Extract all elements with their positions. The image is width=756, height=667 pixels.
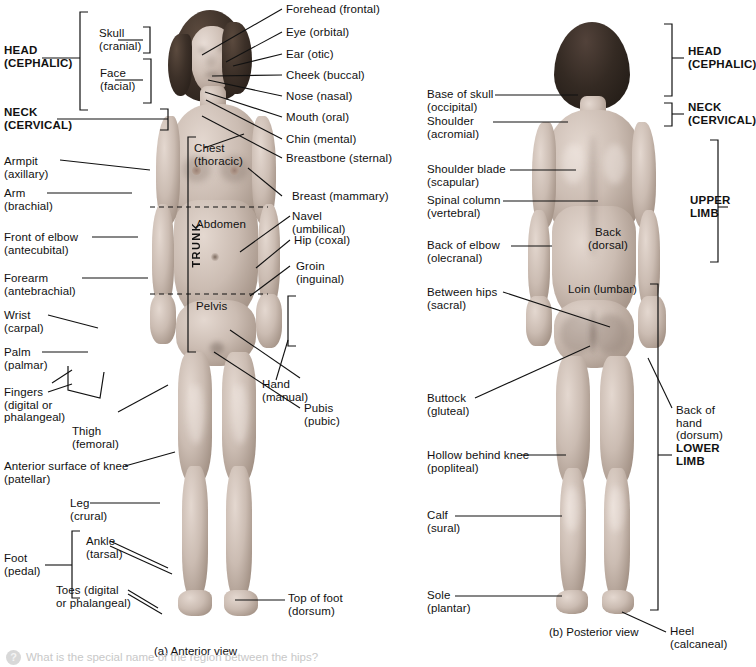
anterior-abdomen-label: Abdomen — [196, 218, 246, 231]
anterior-label-breast: Breast (mammary) — [292, 190, 389, 203]
anterior-label-cheek: Cheek (buccal) — [286, 69, 365, 82]
anterior-label-nose: Nose (nasal) — [286, 90, 352, 103]
posterior-label-shoulder: Shoulder (acromial) — [427, 115, 479, 140]
question-icon: ? — [6, 650, 21, 665]
anterior-head-bracket-label: HEAD (CEPHALIC) — [4, 44, 72, 69]
posterior-label-shoulder-blade: Shoulder blade (scapular) — [427, 163, 506, 188]
anterior-label-top-of-foot: Top of foot (dorsum) — [288, 592, 343, 617]
anterior-label-breastbone: Breastbone (sternal) — [286, 152, 392, 165]
anterior-label-chin: Chin (mental) — [286, 133, 356, 146]
posterior-label-loin: Loin (lumbar) — [568, 283, 637, 296]
anterior-label-fingers: Fingers (digital or phalangeal) — [4, 386, 65, 424]
anterior-label-mouth: Mouth (oral) — [286, 111, 349, 124]
posterior-label-heel: Heel (calcaneal) — [670, 625, 727, 650]
posterior-label-buttock: Buttock (gluteal) — [427, 392, 469, 417]
posterior-label-hollow-behind-knee: Hollow behind knee (popliteal) — [427, 449, 529, 474]
anterior-label-palm: Palm (palmar) — [4, 346, 48, 371]
anterior-label-pubis: Pubis (pubic) — [304, 402, 340, 427]
anterior-neck-bracket-label: NECK (CERVICAL) — [4, 106, 72, 131]
posterior-view-caption: (b) Posterior view — [549, 626, 638, 638]
anterior-label-knee: Anterior surface of knee (patellar) — [4, 460, 129, 485]
anterior-label-thigh: Thigh (femoral) — [72, 425, 119, 450]
anterior-label-leg: Leg (crural) — [70, 497, 107, 522]
anterior-chest-label: Chest (thoracic) — [194, 142, 243, 167]
posterior-label-back-of-elbow: Back of elbow (olecranal) — [427, 239, 500, 264]
anterior-label-hand: Hand (manual) — [262, 378, 308, 403]
anterior-label-hip: Hip (coxal) — [294, 234, 350, 247]
posterior-label-upper-limb: UPPER LIMB — [690, 194, 731, 219]
posterior-label-base-of-skull: Base of skull (occipital) — [427, 88, 494, 113]
anterior-face-bracket-label: Face (facial) — [100, 67, 135, 92]
anterior-label-forearm: Forearm (antebrachial) — [4, 272, 76, 297]
posterior-label-neck: NECK (CERVICAL) — [688, 101, 756, 126]
anterior-label-forehead: Forehead (frontal) — [286, 3, 380, 16]
anterior-label-wrist: Wrist (carpal) — [4, 309, 44, 334]
posterior-label-sole: Sole (plantar) — [427, 589, 471, 614]
footer-question-text: What is the special name of the region b… — [26, 651, 318, 663]
anterior-label-front-of-elbow: Front of elbow (antecubital) — [4, 231, 78, 256]
anterior-label-navel: Navel (umbilical) — [292, 210, 346, 235]
footer-cut-off-row: ? What is the special name of the region… — [0, 649, 754, 667]
posterior-label-back: Back (dorsal) — [578, 226, 638, 251]
posterior-label-head: HEAD (CEPHALIC) — [688, 45, 756, 70]
anterior-label-ankle: Ankle (tarsal) — [86, 535, 123, 560]
anterior-label-ear: Ear (otic) — [286, 48, 334, 61]
posterior-label-calf: Calf (sural) — [427, 509, 460, 534]
anterior-label-arm: Arm (brachial) — [4, 187, 53, 212]
posterior-label-back-of-hand: Back of hand (dorsum) — [676, 404, 723, 442]
anterior-label-eye: Eye (orbital) — [286, 26, 349, 39]
posterior-label-spinal-column: Spinal column (vertebral) — [427, 194, 501, 219]
posterior-label-lower-limb: LOWER LIMB — [676, 442, 720, 467]
anterior-foot-bracket-label: Foot (pedal) — [4, 552, 41, 577]
anterior-skull-bracket-label: Skull (cranial) — [99, 27, 141, 52]
anterior-label-armpit: Armpit (axillary) — [4, 155, 48, 180]
anterior-label-groin: Groin (inguinal) — [296, 260, 344, 285]
anterior-label-toes: Toes (digital or phalangeal) — [56, 584, 131, 609]
anterior-pelvis-label: Pelvis — [196, 300, 227, 313]
posterior-label-between-hips: Between hips (sacral) — [427, 286, 497, 311]
